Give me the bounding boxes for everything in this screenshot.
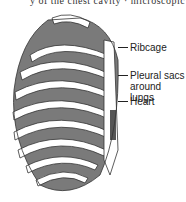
pleural-leader <box>118 75 128 76</box>
label-heart: Heart <box>130 96 154 107</box>
heart-region <box>110 110 116 140</box>
label-ribcage: Ribcage <box>130 42 167 53</box>
ribcage-leader <box>118 47 128 48</box>
heart-leader <box>118 101 128 102</box>
label-pleural-line1: Pleural sacs <box>130 70 184 81</box>
